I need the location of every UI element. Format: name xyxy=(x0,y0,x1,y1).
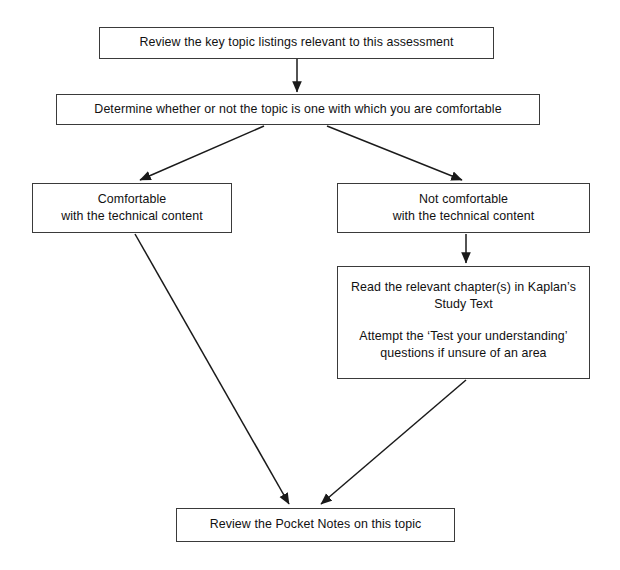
connector-read-to-pocket-notes xyxy=(321,380,466,504)
connector-comfortable-to-pocket-notes xyxy=(135,234,289,504)
flowchart-canvas: Review the key topic listings relevant t… xyxy=(0,0,620,570)
node-text-line: Not comfortable xyxy=(419,191,508,208)
node-not-comfortable-with-technical-content: Not comfortable with the technical conte… xyxy=(337,183,590,233)
node-comfortable-with-technical-content: Comfortable with the technical content xyxy=(32,183,232,233)
node-text-line: Review the key topic listings relevant t… xyxy=(139,34,453,51)
connector-determine-to-not-comfortable xyxy=(327,126,462,180)
node-review-key-topic-listings: Review the key topic listings relevant t… xyxy=(99,27,494,59)
node-determine-comfort: Determine whether or not the topic is on… xyxy=(56,94,540,125)
node-text-line: questions if unsure of an area xyxy=(380,345,546,362)
node-text-line: Read the relevant chapter(s) in Kaplan’s xyxy=(351,279,576,296)
node-text-line: Comfortable xyxy=(98,191,167,208)
node-review-pocket-notes: Review the Pocket Notes on this topic xyxy=(176,508,455,542)
node-text-line: Determine whether or not the topic is on… xyxy=(94,101,501,118)
node-read-kaplan-study-text: Read the relevant chapter(s) in Kaplan’s… xyxy=(337,266,590,379)
node-text-line: Attempt the ‘Test your understanding’ xyxy=(359,328,567,345)
node-text-line: Review the Pocket Notes on this topic xyxy=(210,516,422,533)
node-text-line: Study Text xyxy=(434,296,493,313)
connector-determine-to-comfortable xyxy=(140,126,264,180)
node-text-line: with the technical content xyxy=(393,208,535,225)
node-text-line: with the technical content xyxy=(61,208,203,225)
